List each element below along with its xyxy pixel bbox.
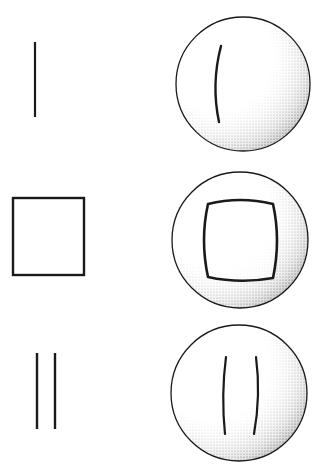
lens-sphere [171,325,307,461]
lens-sphere [176,17,310,151]
original-square [13,198,84,275]
distorted-square [204,200,277,281]
row-square [13,172,308,308]
lens-distortion-figure [0,0,319,474]
row-single-line [35,17,310,151]
row-double-line [37,325,307,461]
